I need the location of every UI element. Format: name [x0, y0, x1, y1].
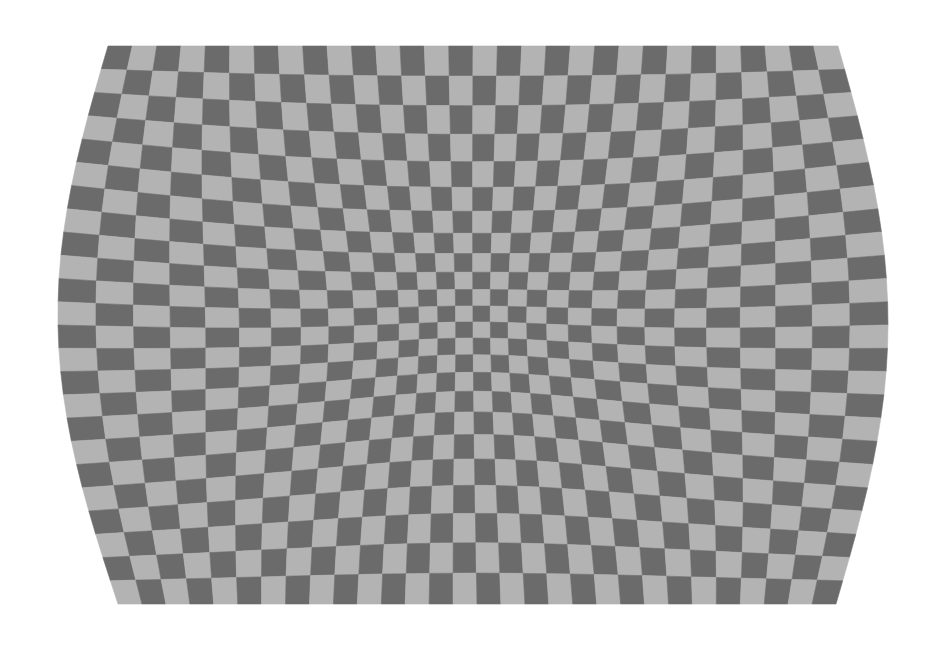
checker-square [310, 575, 335, 604]
checker-square [490, 322, 508, 339]
checker-square [59, 255, 98, 281]
checker-square [511, 392, 533, 414]
checker-square [431, 486, 454, 515]
checker-square [582, 464, 609, 492]
checker-square [542, 76, 568, 106]
checker-square [171, 348, 206, 369]
checker-square [100, 212, 137, 238]
checker-square [492, 211, 513, 233]
checker-square [307, 103, 335, 132]
checker-square [267, 404, 297, 428]
checker-square [597, 399, 625, 422]
checker-square [286, 576, 311, 604]
checker-square [236, 498, 264, 525]
checker-square [615, 547, 642, 576]
checker-square [399, 340, 420, 358]
checker-square [776, 305, 813, 327]
checker-square [301, 309, 329, 328]
checker-square [67, 416, 106, 441]
checker-square [769, 529, 799, 555]
checker-square [318, 208, 346, 232]
checker-square [772, 481, 804, 507]
checker-square [679, 225, 711, 249]
checker-square [153, 46, 181, 72]
checker-square [645, 290, 676, 310]
checker-square [348, 397, 374, 420]
checker-square [294, 423, 323, 448]
checker-square [134, 261, 170, 285]
checker-square [741, 389, 775, 412]
checker-square [299, 363, 328, 384]
checker-square [170, 327, 206, 348]
checker-square [605, 158, 633, 185]
checker-square [473, 134, 495, 161]
checker-square [204, 46, 230, 73]
checker-square [427, 106, 451, 135]
checker-square [280, 74, 307, 103]
checker-square [354, 308, 378, 326]
checker-square [207, 500, 235, 527]
checker-square [386, 487, 410, 516]
checker-square [410, 460, 433, 487]
checker-square [617, 309, 645, 328]
checker-square [354, 76, 380, 106]
checker-square [170, 219, 204, 244]
checker-square [767, 71, 796, 97]
checker-square [594, 575, 620, 605]
checker-square [333, 575, 358, 605]
checker-square [476, 543, 500, 573]
checker-square [642, 576, 668, 604]
checker-square [740, 327, 775, 348]
checker-square [97, 348, 135, 371]
checker-square [491, 373, 511, 393]
checker-square [438, 338, 456, 355]
checker-square [135, 370, 172, 393]
checker-square [774, 435, 808, 460]
checker-square [453, 573, 477, 604]
checker-square [231, 153, 261, 180]
checker-square [380, 105, 406, 134]
checker-square [82, 116, 117, 142]
checker-square [312, 519, 338, 548]
checker-square [434, 412, 455, 435]
checker-square [690, 550, 716, 578]
checker-square [236, 474, 265, 501]
checker-square [641, 46, 668, 75]
checker-square [812, 303, 850, 326]
checker-square [114, 483, 149, 509]
checker-square [473, 322, 491, 338]
checker-square [810, 392, 847, 416]
checker-square [517, 105, 542, 134]
checker-square [619, 363, 648, 384]
checker-square [473, 338, 491, 355]
checker-square [266, 425, 296, 450]
checker-square [351, 272, 376, 291]
checker-square [531, 394, 554, 416]
checker-square [58, 302, 96, 326]
checker-square [775, 193, 809, 220]
checker-square [514, 436, 537, 462]
checker-square [716, 73, 743, 101]
checker-square [232, 178, 263, 204]
checker-square [491, 355, 510, 373]
checker-square [181, 527, 210, 554]
checker-square [327, 361, 354, 382]
checker-square [473, 272, 491, 289]
checker-square [407, 161, 431, 187]
checker-square [675, 328, 707, 348]
checker-square [473, 372, 492, 391]
checker-square [600, 420, 628, 445]
checker-square [848, 255, 887, 281]
checker-square [72, 162, 109, 189]
checker-square [315, 183, 343, 208]
checker-square [741, 242, 776, 266]
checker-square [518, 486, 542, 515]
checker-square [592, 46, 619, 76]
checker-square [812, 281, 850, 305]
checker-square [516, 134, 540, 162]
checker-square [742, 72, 770, 99]
checker-square [528, 357, 550, 376]
checker-square [837, 162, 874, 189]
checker-square [527, 307, 547, 324]
checker-square [403, 105, 428, 134]
